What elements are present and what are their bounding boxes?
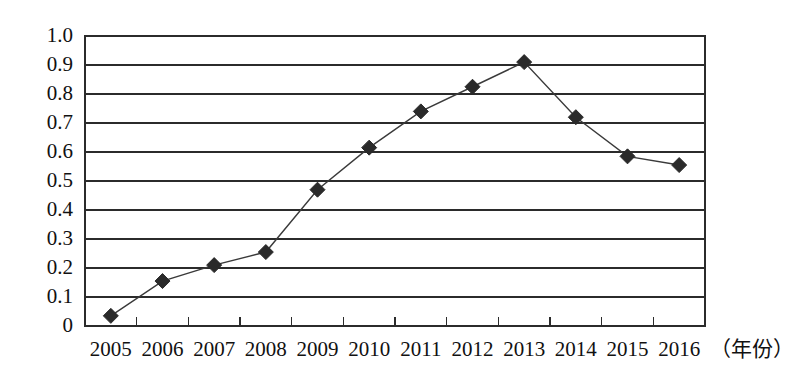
ytick-label: 0.1 — [47, 284, 73, 308]
data-point-marker — [362, 140, 377, 155]
series-markers-group — [103, 55, 686, 324]
xaxis-title-label: （年份） — [710, 337, 794, 361]
ytick-label: 0 — [63, 313, 74, 337]
xtick-label: 2015 — [607, 337, 649, 361]
xtick-label: 2009 — [297, 337, 339, 361]
ytick-label: 0.8 — [47, 81, 73, 105]
data-point-marker — [413, 104, 428, 119]
xtick-label: 2014 — [555, 337, 598, 361]
series-polyline — [111, 62, 679, 316]
xaxis-ticks-group — [137, 317, 654, 326]
line-chart: 00.10.20.30.40.50.60.70.80.91.0 20052006… — [0, 0, 812, 377]
data-point-marker — [103, 308, 118, 323]
series-line-group — [111, 62, 679, 316]
xtick-label: 2010 — [348, 337, 390, 361]
data-point-marker — [465, 79, 480, 94]
ytick-label: 0.7 — [47, 110, 73, 134]
xtick-label: 2008 — [245, 337, 287, 361]
ytick-label: 0.4 — [47, 197, 74, 221]
ytick-label: 0.2 — [47, 255, 73, 279]
ytick-label: 0.3 — [47, 226, 73, 250]
xtick-label: 2007 — [193, 337, 235, 361]
ytick-label: 0.6 — [47, 139, 73, 163]
xtick-label: 2012 — [452, 337, 494, 361]
xtick-label: 2013 — [503, 337, 545, 361]
xtick-label: 2006 — [142, 337, 184, 361]
gridlines-group — [85, 36, 705, 326]
xtick-label: 2016 — [658, 337, 700, 361]
ytick-label: 0.5 — [47, 168, 73, 192]
chart-figure: 00.10.20.30.40.50.60.70.80.91.0 20052006… — [0, 0, 812, 377]
xaxis-title-group: （年份） — [710, 337, 794, 361]
xtick-label: 2011 — [400, 337, 441, 361]
ytick-label: 1.0 — [47, 23, 73, 47]
ytick-labels-group: 00.10.20.30.40.50.60.70.80.91.0 — [47, 23, 74, 337]
xtick-label: 2005 — [90, 337, 132, 361]
ytick-label: 0.9 — [47, 52, 73, 76]
xtick-labels-group: 2005200620072008200920102011201220132014… — [90, 337, 700, 361]
data-point-marker — [672, 158, 687, 173]
data-point-marker — [620, 149, 635, 164]
data-point-marker — [207, 258, 222, 273]
data-point-marker — [155, 274, 170, 289]
